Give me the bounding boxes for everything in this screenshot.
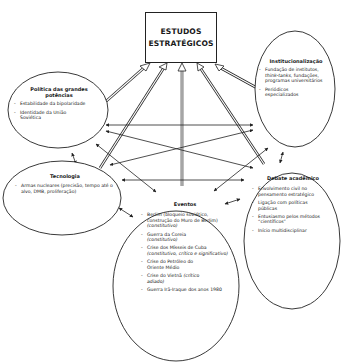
list-item: Fundação de institutos, think-tanks, fun… bbox=[259, 67, 333, 84]
list-item: Berlim (bloqueio soviético, construção d… bbox=[141, 212, 229, 229]
node-eventos: Eventos Berlim (bloqueio soviético, cons… bbox=[141, 201, 229, 295]
node-title: Tecnologia bbox=[15, 173, 115, 179]
node-title: Debate acadêmico bbox=[252, 175, 334, 181]
list-item: Envolvimento civil no pensamento estraté… bbox=[252, 186, 334, 197]
list-item: Crise dos Mísseis de Cuba (constitutivo,… bbox=[141, 245, 229, 256]
node-debate: Debate acadêmico Envolvimento civil no p… bbox=[252, 175, 334, 236]
list-item: Estabilidade da bipolaridade bbox=[14, 101, 104, 107]
list-item: Guerra Irã-Iraque dos anos 1980 bbox=[141, 287, 229, 293]
list-item: Entusiasmo pelos métodos “científicos” bbox=[252, 214, 334, 225]
node-institucionalizacao: Institucionalização Fundação de institut… bbox=[259, 58, 333, 100]
list-item: Guerra da Coreia (constitutivo) bbox=[141, 232, 229, 243]
list-item: Crise do Petróleo do Oriente Médio bbox=[141, 259, 229, 270]
central-title-line2: ESTRATÉGICOS bbox=[148, 38, 213, 50]
list-item: Armas nucleares (precisão, tempo até o a… bbox=[15, 183, 115, 194]
list-item: Crise do Vietnã (crítico adiado) bbox=[141, 273, 229, 284]
node-title: Institucionalização bbox=[259, 58, 333, 64]
list-item: Início multidisciplinar bbox=[252, 228, 334, 234]
central-title-line1: ESTUDOS bbox=[148, 26, 213, 38]
central-box-estudos-estrategicos: ESTUDOS ESTRATÉGICOS bbox=[145, 12, 217, 63]
list-item: Periódicos especializados bbox=[259, 87, 333, 98]
node-title: Eventos bbox=[141, 201, 229, 207]
node-title: Política das grandes potências bbox=[14, 86, 104, 98]
list-item: Identidade da União Soviética bbox=[14, 110, 104, 121]
list-item: Ligação com políticas públicas bbox=[252, 200, 334, 211]
node-tecnologia: Tecnologia Armas nucleares (precisão, te… bbox=[15, 173, 115, 197]
node-politica: Política das grandes potências Estabilid… bbox=[14, 86, 104, 123]
